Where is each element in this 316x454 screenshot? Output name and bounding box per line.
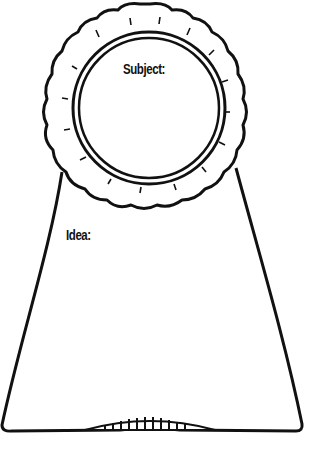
rosette-center [79, 38, 219, 178]
idea-label: Idea: [66, 227, 91, 243]
subject-label: Subject: [123, 61, 165, 77]
